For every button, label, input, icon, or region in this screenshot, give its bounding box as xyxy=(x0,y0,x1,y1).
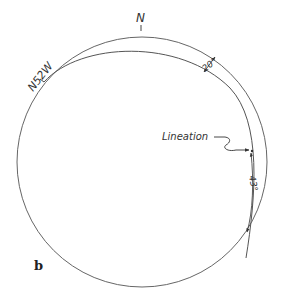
lineation-point xyxy=(251,150,253,152)
panel-label: b xyxy=(34,258,43,273)
north-label: N xyxy=(136,11,145,25)
primitive-circle xyxy=(17,37,267,287)
stereonet-diagram: N N52W 20° Lineation 43° b xyxy=(0,0,284,306)
dip-label: 20° xyxy=(200,56,219,74)
plane-great-circle xyxy=(44,51,254,258)
rake-arc xyxy=(247,153,253,232)
lineation-label: Lineation xyxy=(162,131,208,142)
lineation-leader xyxy=(214,137,249,151)
rake-label: 43° xyxy=(247,175,260,192)
